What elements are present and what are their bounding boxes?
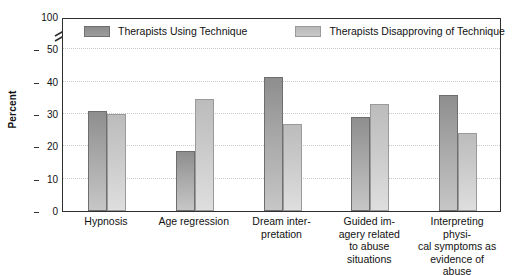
gridline bbox=[63, 48, 500, 49]
bar bbox=[351, 117, 370, 211]
legend-label: Therapists Disapproving of Technique bbox=[329, 26, 505, 37]
bar bbox=[370, 104, 389, 211]
bar bbox=[283, 124, 302, 211]
x-axis-label-line: to abuse bbox=[327, 240, 411, 253]
bar bbox=[458, 133, 477, 211]
x-axis-label-line: Guided im- bbox=[327, 215, 411, 228]
x-axis-label-line: agery related bbox=[327, 228, 411, 241]
legend-swatch bbox=[84, 26, 110, 37]
x-axis-label-line: situations bbox=[327, 253, 411, 266]
bar bbox=[88, 111, 107, 211]
x-axis-label: Age regression bbox=[150, 215, 238, 273]
x-axis-label-line: evidence of abuse bbox=[415, 253, 499, 275]
y-axis-title: Percent bbox=[7, 80, 18, 140]
x-axis-label-line: Age regression bbox=[152, 215, 236, 228]
x-axis-label-line: Interpreting physi- bbox=[415, 215, 499, 240]
x-axis-label-line: pretation bbox=[240, 228, 324, 241]
bar-chart: Percent 10050403020100 Therapists Using … bbox=[0, 0, 515, 275]
bar bbox=[195, 99, 214, 211]
x-axis-label: Hypnosis bbox=[62, 215, 150, 273]
y-tick-mark bbox=[34, 180, 39, 181]
y-tick-label: 100 bbox=[32, 13, 58, 23]
legend: Therapists Using TechniqueTherapists Dis… bbox=[62, 18, 501, 44]
y-tick-mark bbox=[34, 83, 39, 84]
plot-area bbox=[62, 18, 501, 212]
x-axis-label: Interpreting physi-cal symptoms aseviden… bbox=[413, 215, 501, 273]
x-axis-label-line: cal symptoms as bbox=[415, 240, 499, 253]
x-axis-label: Dream inter-pretation bbox=[238, 215, 326, 273]
x-axis-label: Guided im-agery relatedto abusesituation… bbox=[325, 215, 413, 273]
legend-swatch bbox=[295, 26, 321, 37]
bar bbox=[264, 77, 283, 211]
x-axis-labels: HypnosisAge regressionDream inter-pretat… bbox=[62, 215, 501, 273]
x-axis-label-line: Dream inter- bbox=[240, 215, 324, 228]
legend-entry: Therapists Using Technique bbox=[84, 26, 247, 37]
y-tick-mark bbox=[34, 147, 39, 148]
bar bbox=[107, 114, 126, 211]
legend-entry: Therapists Disapproving of Technique bbox=[295, 26, 505, 37]
y-tick-mark bbox=[34, 115, 39, 116]
y-tick-mark bbox=[34, 212, 39, 213]
x-axis-label-line: Hypnosis bbox=[64, 215, 148, 228]
y-tick-mark bbox=[34, 50, 39, 51]
bar bbox=[176, 151, 195, 211]
legend-label: Therapists Using Technique bbox=[118, 26, 247, 37]
bar bbox=[439, 95, 458, 211]
